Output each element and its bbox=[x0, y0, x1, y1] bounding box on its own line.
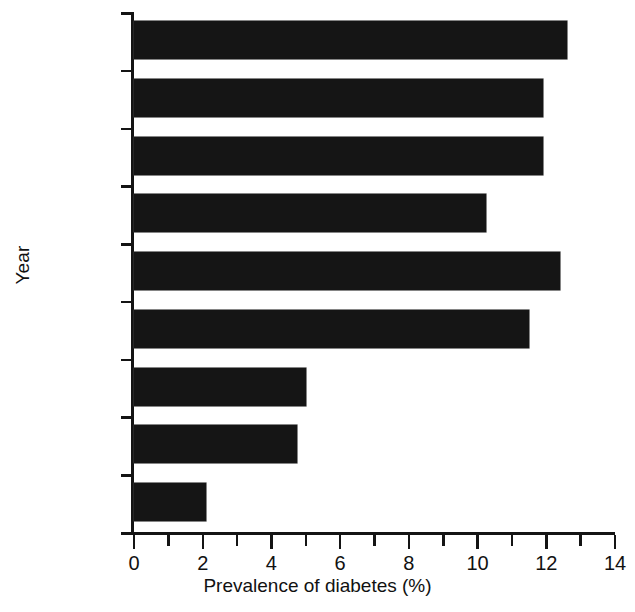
x-tick-major bbox=[545, 535, 548, 549]
bar bbox=[134, 483, 206, 521]
x-tick-major bbox=[202, 535, 205, 549]
x-tick-minor bbox=[442, 535, 445, 546]
y-tick bbox=[121, 532, 132, 535]
y-tick bbox=[121, 301, 132, 304]
bar bbox=[134, 79, 543, 117]
y-tick bbox=[121, 416, 132, 419]
x-tick-minor bbox=[373, 535, 376, 546]
bar bbox=[134, 137, 543, 175]
bar bbox=[134, 425, 297, 463]
x-axis-tick-label: 6 bbox=[320, 553, 360, 573]
x-axis-tick-label: 14 bbox=[595, 553, 635, 573]
y-tick bbox=[121, 12, 132, 15]
x-axis-tick-label: 4 bbox=[251, 553, 291, 573]
y-tick bbox=[121, 128, 132, 131]
x-tick-minor bbox=[167, 535, 170, 546]
x-tick-major bbox=[476, 535, 479, 549]
x-tick-major bbox=[270, 535, 273, 549]
bar bbox=[134, 21, 567, 59]
x-tick-major bbox=[339, 535, 342, 549]
plot-area: 2003292001192001202001282000271999261988… bbox=[134, 12, 615, 532]
y-axis-title-text: Year bbox=[12, 245, 34, 284]
bar bbox=[134, 368, 306, 406]
x-axis-tick-label: 10 bbox=[458, 553, 498, 573]
x-axis-tick-label: 0 bbox=[114, 553, 154, 573]
y-tick bbox=[121, 474, 132, 477]
y-tick bbox=[121, 185, 132, 188]
y-tick bbox=[121, 359, 132, 362]
x-tick-minor bbox=[236, 535, 239, 546]
bar bbox=[134, 194, 486, 232]
x-tick-major bbox=[133, 535, 136, 549]
y-tick bbox=[121, 70, 132, 73]
x-axis-tick-label: 2 bbox=[183, 553, 223, 573]
bar bbox=[134, 252, 560, 290]
x-tick-minor bbox=[579, 535, 582, 546]
y-tick bbox=[121, 243, 132, 246]
x-axis-tick-label: 8 bbox=[389, 553, 429, 573]
bar bbox=[134, 310, 529, 348]
x-axis-title: Prevalence of diabetes (%) bbox=[0, 575, 635, 597]
bar-chart-figure: Year 20032920011920012020012820002719992… bbox=[0, 0, 635, 612]
x-tick-minor bbox=[511, 535, 514, 546]
x-tick-major bbox=[408, 535, 411, 549]
y-axis-title: Year bbox=[6, 0, 40, 530]
x-axis-tick-label: 12 bbox=[526, 553, 566, 573]
x-tick-major bbox=[614, 535, 617, 549]
x-tick-minor bbox=[305, 535, 308, 546]
